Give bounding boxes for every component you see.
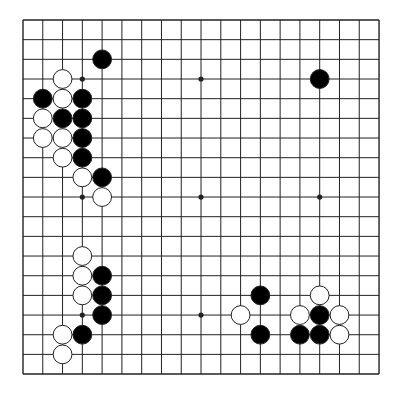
black-stone[interactable]: [93, 168, 112, 187]
star-point-icon: [80, 76, 85, 81]
star-point-icon: [80, 194, 85, 199]
white-stone[interactable]: [330, 306, 349, 325]
black-stone[interactable]: [73, 129, 92, 148]
black-stone[interactable]: [251, 286, 270, 305]
star-point-icon: [198, 76, 203, 81]
black-stone[interactable]: [73, 109, 92, 128]
black-stone[interactable]: [33, 89, 52, 108]
white-stone[interactable]: [53, 70, 72, 89]
white-stone[interactable]: [53, 89, 72, 108]
white-stone[interactable]: [310, 286, 329, 305]
white-stone[interactable]: [53, 325, 72, 344]
white-stone[interactable]: [231, 306, 250, 325]
black-stone[interactable]: [73, 148, 92, 167]
black-stone[interactable]: [53, 109, 72, 128]
black-stone[interactable]: [93, 50, 112, 69]
black-stone[interactable]: [73, 325, 92, 344]
black-stone[interactable]: [251, 325, 270, 344]
star-point-icon: [198, 312, 203, 317]
white-stone[interactable]: [53, 129, 72, 148]
black-stone[interactable]: [310, 325, 329, 344]
white-stone[interactable]: [73, 266, 92, 285]
white-stone[interactable]: [73, 168, 92, 187]
star-point-icon: [80, 312, 85, 317]
white-stone[interactable]: [53, 345, 72, 364]
black-stone[interactable]: [291, 325, 310, 344]
white-stone[interactable]: [73, 286, 92, 305]
white-stone[interactable]: [33, 129, 52, 148]
white-stone[interactable]: [330, 325, 349, 344]
black-stone[interactable]: [93, 266, 112, 285]
white-stone[interactable]: [53, 148, 72, 167]
star-point-icon: [198, 194, 203, 199]
white-stone[interactable]: [73, 247, 92, 266]
black-stone[interactable]: [93, 286, 112, 305]
black-stone[interactable]: [73, 89, 92, 108]
go-board-canvas[interactable]: [0, 0, 400, 397]
white-stone[interactable]: [33, 109, 52, 128]
star-point-icon: [317, 194, 322, 199]
black-stone[interactable]: [310, 70, 329, 89]
black-stone[interactable]: [93, 306, 112, 325]
black-stone[interactable]: [310, 306, 329, 325]
go-board[interactable]: [0, 0, 400, 397]
white-stone[interactable]: [291, 306, 310, 325]
white-stone[interactable]: [93, 188, 112, 207]
